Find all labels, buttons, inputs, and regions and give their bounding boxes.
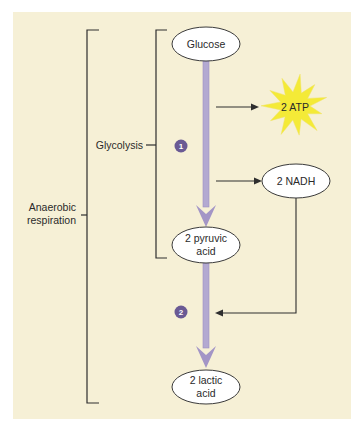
step-badge-1: 1 bbox=[175, 140, 188, 153]
lactic-label-line2: acid bbox=[196, 387, 215, 399]
nadh-label: 2 NADH bbox=[277, 175, 316, 187]
anaerobic-label-line1: Anaerobic bbox=[29, 201, 76, 213]
atp-label: 2 ATP bbox=[281, 101, 309, 113]
pyruvic-label-line2: acid bbox=[196, 245, 215, 257]
step-badge-2: 2 bbox=[175, 306, 188, 319]
step-badge-2-label: 2 bbox=[179, 308, 184, 317]
anaerobic-respiration-diagram: Anaerobic respiration Glycolysis 2 ATP G… bbox=[0, 0, 358, 425]
pyruvic-label-line1: 2 pyruvic bbox=[185, 232, 227, 244]
lactic-label-line1: 2 lactic bbox=[190, 374, 223, 386]
glucose-label: Glucose bbox=[187, 38, 226, 50]
nadh-node: 2 NADH bbox=[262, 164, 330, 198]
glycolysis-label: Glycolysis bbox=[96, 139, 143, 151]
step-badge-1-label: 1 bbox=[179, 142, 184, 151]
anaerobic-label-line2: respiration bbox=[27, 214, 76, 226]
lactic-acid-node: 2 lactic acid bbox=[172, 370, 240, 404]
pyruvic-acid-node: 2 pyruvic acid bbox=[172, 227, 240, 263]
glucose-node: Glucose bbox=[172, 27, 240, 61]
